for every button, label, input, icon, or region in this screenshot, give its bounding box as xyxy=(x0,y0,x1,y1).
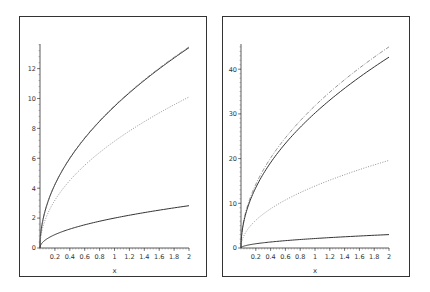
y-tick-label: 30 xyxy=(229,110,237,118)
x-tick-label: 1.8 xyxy=(369,253,379,261)
x-tick-label: 1.6 xyxy=(154,253,164,261)
left-chart: 0.20.40.60.811.21.41.61.82024681012x xyxy=(20,17,208,278)
x-tick-label: 2 xyxy=(387,253,391,261)
series-lower-solid xyxy=(40,206,189,248)
y-tick-label: 2 xyxy=(32,214,36,222)
y-tick-label: 8 xyxy=(32,125,36,133)
x-tick-label: 0.2 xyxy=(251,253,261,261)
x-tick-label: 0.4 xyxy=(65,253,75,261)
y-tick-label: 40 xyxy=(229,66,237,74)
series-upper-solid xyxy=(241,57,389,248)
x-tick-label: 1 xyxy=(112,253,116,261)
y-tick-label: 6 xyxy=(32,155,36,163)
x-tick-label: 0.4 xyxy=(265,253,275,261)
x-tick-label: 1.6 xyxy=(354,253,364,261)
x-tick-label: 0.8 xyxy=(94,253,104,261)
x-axis-label: x xyxy=(313,267,317,275)
x-tick-label: 1.2 xyxy=(325,253,335,261)
y-tick-label: 4 xyxy=(32,185,36,193)
series-middle-dotted xyxy=(40,97,189,248)
x-tick-label: 0.8 xyxy=(295,253,305,261)
y-tick-label: 10 xyxy=(28,95,36,103)
y-tick-label: 0 xyxy=(233,244,237,252)
y-tick-label: 20 xyxy=(229,155,237,163)
x-axis-label: x xyxy=(112,267,116,275)
x-tick-label: 0.6 xyxy=(280,253,290,261)
left-chart-panel: 0.20.40.60.811.21.41.61.82024681012x xyxy=(19,16,207,277)
right-chart-panel: 0.20.40.60.811.21.41.61.82010203040x xyxy=(222,16,410,277)
x-tick-label: 0.6 xyxy=(80,253,90,261)
x-tick-label: 1.4 xyxy=(339,253,349,261)
y-tick-label: 12 xyxy=(28,65,36,73)
x-tick-label: 0.2 xyxy=(50,253,60,261)
x-tick-label: 1.2 xyxy=(124,253,134,261)
x-tick-label: 2 xyxy=(187,253,191,261)
series-lower-solid xyxy=(241,235,389,248)
right-chart: 0.20.40.60.811.21.41.61.82010203040x xyxy=(223,17,411,278)
x-tick-label: 1.4 xyxy=(139,253,149,261)
y-tick-label: 0 xyxy=(32,244,36,252)
series-upper-dashdot xyxy=(241,47,389,248)
y-tick-label: 10 xyxy=(229,200,237,208)
x-tick-label: 1.8 xyxy=(169,253,179,261)
x-tick-label: 1 xyxy=(313,253,317,261)
